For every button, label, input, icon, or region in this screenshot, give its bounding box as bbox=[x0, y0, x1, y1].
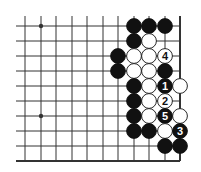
black-stone bbox=[127, 109, 142, 124]
black-stone bbox=[111, 49, 126, 64]
black-stone: 1 bbox=[158, 79, 173, 94]
black-stone bbox=[127, 34, 142, 49]
white-stone bbox=[142, 94, 157, 109]
go-board: 41253 bbox=[0, 0, 201, 172]
white-stone bbox=[173, 79, 188, 94]
white-stone bbox=[127, 64, 142, 79]
white-stone bbox=[127, 49, 142, 64]
black-stone bbox=[127, 94, 142, 109]
white-stone bbox=[173, 109, 188, 124]
white-stone bbox=[158, 124, 173, 139]
black-stone: 5 bbox=[158, 109, 173, 124]
star-point bbox=[39, 24, 43, 28]
white-stone: 4 bbox=[158, 49, 173, 64]
black-stone bbox=[142, 19, 157, 34]
black-stone bbox=[127, 79, 142, 94]
black-stone bbox=[158, 64, 173, 79]
white-stone bbox=[142, 109, 157, 124]
white-stone: 2 bbox=[158, 94, 173, 109]
white-stone bbox=[142, 79, 157, 94]
move-number-label: 3 bbox=[177, 125, 183, 137]
move-number-label: 4 bbox=[162, 50, 169, 62]
black-stone bbox=[111, 64, 126, 79]
black-stone bbox=[127, 19, 142, 34]
black-stone bbox=[158, 139, 173, 154]
white-stone bbox=[142, 64, 157, 79]
move-number-label: 2 bbox=[162, 95, 168, 107]
white-stone bbox=[142, 34, 157, 49]
move-number-label: 1 bbox=[162, 80, 168, 92]
black-stone bbox=[127, 124, 142, 139]
black-stone bbox=[158, 19, 173, 34]
move-number-label: 5 bbox=[162, 110, 168, 122]
star-point bbox=[39, 114, 43, 118]
black-stone: 3 bbox=[173, 124, 188, 139]
black-stone bbox=[142, 124, 157, 139]
white-stone bbox=[142, 49, 157, 64]
black-stone bbox=[173, 139, 188, 154]
